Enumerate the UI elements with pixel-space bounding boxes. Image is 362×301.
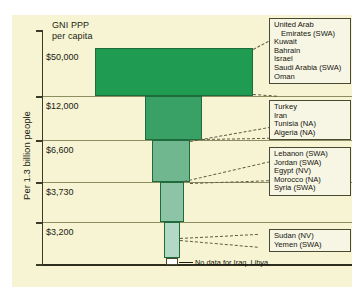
- y-axis-tick-1: [36, 96, 43, 98]
- callout-line: Yemen (SWA): [274, 241, 347, 250]
- band-value-label-1: $50,000: [46, 52, 79, 62]
- band-separator-4: [42, 222, 352, 223]
- chart-figure: GNI PPP per capita Per 1.3 billion peopl…: [0, 0, 362, 301]
- funnel-bar-3: [152, 140, 190, 182]
- y-axis-label: Per 1.3 billion people: [21, 86, 32, 226]
- y-axis-tick-3: [36, 182, 43, 184]
- band-value-label-4: $3,730: [46, 187, 74, 197]
- y-axis-tick-2: [36, 140, 43, 142]
- callout-line: Syria (SWA): [274, 184, 347, 193]
- no-data-note: No data for Iraq, Libya.: [195, 258, 270, 267]
- callout-box-third[interactable]: Lebanon (SWA) Jordan (SWA) Egypt (NV) Mo…: [269, 147, 351, 196]
- callout-line: Oman: [274, 73, 347, 82]
- funnel-bar-1: [95, 48, 253, 96]
- callout-box-second[interactable]: Turkey Iran Tunisia (NA) Algeria (NA): [269, 100, 351, 140]
- funnel-bar-5: [164, 222, 180, 258]
- band-value-label-3: $6,600: [46, 145, 74, 155]
- y-axis-line: [42, 30, 43, 265]
- chart-title: GNI PPP per capita: [52, 20, 93, 42]
- funnel-bar-2: [145, 96, 202, 140]
- y-axis-tick-4: [36, 222, 43, 224]
- no-data-leader-line: [179, 262, 193, 263]
- funnel-bar-4: [160, 182, 184, 222]
- chart-title-line-2: per capita: [52, 31, 93, 42]
- callout-line: Algeria (NA): [274, 129, 347, 138]
- chart-title-line-1: GNI PPP: [52, 20, 93, 31]
- band-value-label-2: $12,000: [46, 101, 79, 111]
- callout-box-top[interactable]: United Arab Emirates (SWA) Kuwait Bahrai…: [269, 18, 351, 84]
- y-axis-tick-5: [36, 264, 43, 266]
- funnel-bar-no-data: [166, 258, 178, 265]
- callout-box-fourth[interactable]: Sudan (NV) Yemen (SWA): [269, 229, 351, 252]
- band-value-label-5: $3,200: [46, 227, 74, 237]
- y-axis-tick-0: [36, 30, 43, 32]
